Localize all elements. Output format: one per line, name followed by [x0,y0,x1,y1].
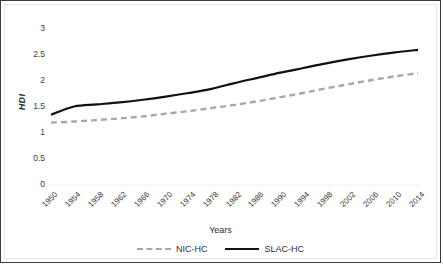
series-lines [51,50,418,123]
chart-figure: HDI Years 00.511.522.53 1950195419581962… [0,0,441,263]
y-tick-label: 1 [19,128,45,137]
y-tick-label: 3 [19,24,45,33]
y-tick-label: 2 [19,76,45,85]
legend-label-nic-hc: NIC-HC [176,244,208,254]
legend-label-slac-hc: SLAC-HC [264,244,304,254]
series-line-nic-hc [51,73,418,122]
line-chart-plot [1,1,443,265]
y-tick-label: 0.5 [19,154,45,163]
legend-item-nic-hc[interactable]: NIC-HC [137,244,208,254]
solid-line-icon [225,248,259,250]
y-tick-label: 0 [19,180,45,189]
y-tick-label: 1.5 [19,102,45,111]
y-tick-label: 2.5 [19,50,45,59]
chart-legend: NIC-HC SLAC-HC [1,244,440,254]
dashed-line-icon [137,248,171,250]
legend-item-slac-hc[interactable]: SLAC-HC [225,244,304,254]
